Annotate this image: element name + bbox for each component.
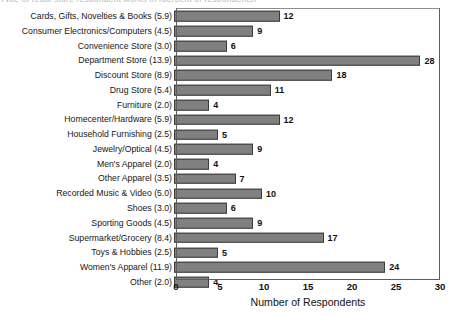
bar: [174, 233, 324, 244]
bar: [174, 114, 280, 125]
chart-row: Furniture (2.0)4: [0, 98, 453, 113]
bar: [174, 188, 262, 199]
bar-value-label: 6: [231, 203, 236, 213]
clipped-header-text: Type of retail store respondent works in…: [0, 0, 453, 2]
chart-row: Jewelry/Optical (4.5)9: [0, 142, 453, 157]
bar-track: 24: [174, 260, 453, 275]
bar-value-label: 11: [275, 85, 285, 95]
category-label: Sporting Goods (4.5): [0, 219, 174, 228]
chart-row: Cards, Gifts, Novelties & Books (5.9)12: [0, 9, 453, 24]
chart-rows: Cards, Gifts, Novelties & Books (5.9)12C…: [0, 9, 453, 290]
bar-track: 17: [174, 230, 453, 245]
bar-chart: Type of retail store respondent works in…: [0, 0, 453, 316]
category-label: Other Apparel (3.5): [0, 174, 174, 183]
category-label: Women's Apparel (11.9): [0, 263, 174, 272]
chart-row: Sporting Goods (4.5)9: [0, 216, 453, 231]
x-tick-label: 25: [391, 281, 402, 292]
bar: [174, 55, 420, 66]
category-label: Consumer Electronics/Computers (4.5): [0, 27, 174, 36]
chart-row: Men's Apparel (2.0)4: [0, 157, 453, 172]
bar: [174, 247, 218, 258]
bar-value-label: 6: [231, 41, 236, 51]
category-label: Household Furnishing (2.5): [0, 130, 174, 139]
bar-value-label: 12: [284, 11, 294, 21]
chart-row: Supermarket/Grocery (8.4)17: [0, 230, 453, 245]
chart-row: Discount Store (8.9)18: [0, 68, 453, 83]
x-axis: 051015202530: [176, 281, 440, 295]
category-label: Convenience Store (3.0): [0, 42, 174, 51]
bar-track: 18: [174, 68, 453, 83]
bar-value-label: 7: [240, 174, 245, 184]
bar-value-label: 4: [213, 100, 218, 110]
category-label: Cards, Gifts, Novelties & Books (5.9): [0, 12, 174, 21]
chart-row: Homecenter/Hardware (5.9)12: [0, 112, 453, 127]
bar: [174, 11, 280, 22]
bar-track: 4: [174, 98, 453, 113]
x-tick-label: 5: [217, 281, 222, 292]
x-tick-label: 15: [303, 281, 314, 292]
bar-track: 5: [174, 127, 453, 142]
chart-row: Household Furnishing (2.5)5: [0, 127, 453, 142]
chart-row: Recorded Music & Video (5.0)10: [0, 186, 453, 201]
bar-track: 9: [174, 24, 453, 39]
bar: [174, 144, 253, 155]
category-label: Jewelry/Optical (4.5): [0, 145, 174, 154]
bar-track: 6: [174, 201, 453, 216]
bar-value-label: 17: [328, 233, 338, 243]
category-label: Discount Store (8.9): [0, 71, 174, 80]
category-label: Drug Store (5.4): [0, 86, 174, 95]
bar-value-label: 24: [389, 262, 399, 272]
bar-track: 5: [174, 245, 453, 260]
bar-value-label: 5: [222, 130, 227, 140]
bar: [174, 159, 209, 170]
category-label: Homecenter/Hardware (5.9): [0, 115, 174, 124]
bar: [174, 129, 218, 140]
bar: [174, 41, 227, 52]
category-label: Recorded Music & Video (5.0): [0, 189, 174, 198]
bar-track: 9: [174, 142, 453, 157]
bar-track: 6: [174, 39, 453, 54]
bar-track: 7: [174, 171, 453, 186]
bar: [174, 174, 236, 185]
chart-row: Department Store (13.9)28: [0, 53, 453, 68]
chart-row: Other Apparel (3.5)7: [0, 171, 453, 186]
bar-value-label: 18: [336, 70, 346, 80]
chart-row: Women's Apparel (11.9)24: [0, 260, 453, 275]
category-label: Supermarket/Grocery (8.4): [0, 234, 174, 243]
category-label: Shoes (3.0): [0, 204, 174, 213]
bar-track: 9: [174, 216, 453, 231]
x-tick-label: 20: [347, 281, 358, 292]
bar: [174, 262, 385, 273]
x-tick-label: 30: [435, 281, 446, 292]
bar-track: 10: [174, 186, 453, 201]
bar-track: 12: [174, 112, 453, 127]
chart-row: Shoes (3.0)6: [0, 201, 453, 216]
category-label: Toys & Hobbies (2.5): [0, 248, 174, 257]
x-axis-title: Number of Respondents: [176, 296, 440, 308]
bar: [174, 70, 332, 81]
bar-value-label: 4: [213, 159, 218, 169]
chart-row: Toys & Hobbies (2.5)5: [0, 245, 453, 260]
bar: [174, 85, 271, 96]
bar-track: 12: [174, 9, 453, 24]
bar-value-label: 9: [257, 26, 262, 36]
bar-value-label: 12: [284, 115, 294, 125]
bar: [174, 26, 253, 37]
bar: [174, 100, 209, 111]
chart-row: Consumer Electronics/Computers (4.5)9: [0, 24, 453, 39]
bar: [174, 203, 227, 214]
bar-value-label: 10: [266, 189, 276, 199]
bar-track: 28: [174, 53, 453, 68]
category-label: Other (2.0): [0, 278, 174, 287]
chart-row: Convenience Store (3.0)6: [0, 39, 453, 54]
bar-track: 4: [174, 157, 453, 172]
x-tick-label: 10: [259, 281, 270, 292]
x-tick-label: 0: [173, 281, 178, 292]
category-label: Men's Apparel (2.0): [0, 160, 174, 169]
bar-value-label: 5: [222, 248, 227, 258]
bar-value-label: 9: [257, 144, 262, 154]
bar: [174, 218, 253, 229]
category-label: Furniture (2.0): [0, 101, 174, 110]
category-label: Department Store (13.9): [0, 56, 174, 65]
bar-track: 11: [174, 83, 453, 98]
